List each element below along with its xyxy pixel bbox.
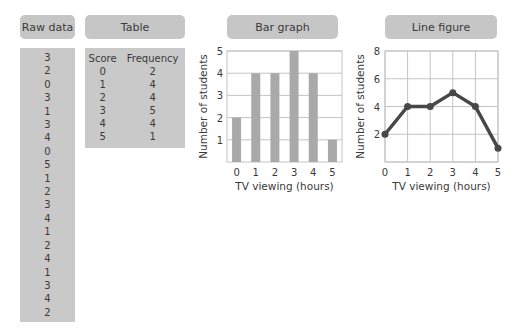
line-x-tick-label: 2 bbox=[427, 167, 433, 178]
bar-x-tick-label: 5 bbox=[329, 167, 335, 178]
line-x-tick-label: 3 bbox=[450, 167, 456, 178]
bar bbox=[251, 73, 260, 162]
bar-y-tick-label: 1 bbox=[217, 135, 223, 146]
bar-y-tick-label: 5 bbox=[217, 46, 223, 57]
line-y-tick-label: 2 bbox=[374, 129, 380, 140]
bar bbox=[309, 73, 318, 162]
bar bbox=[290, 51, 299, 162]
data-point-marker bbox=[382, 131, 389, 138]
bar-plot-area bbox=[227, 51, 342, 162]
bar-x-tick-label: 1 bbox=[253, 167, 259, 178]
line-x-tick-label: 0 bbox=[382, 167, 388, 178]
line-x-axis-label: TV viewing (hours) bbox=[391, 180, 490, 192]
line-y-tick-label: 6 bbox=[374, 74, 380, 85]
bar-x-tick-label: 0 bbox=[233, 167, 239, 178]
bar-chart: 12345012345TV viewing (hours)Number of s… bbox=[197, 46, 342, 192]
line-x-tick-label: 5 bbox=[495, 167, 501, 178]
line-chart: 0123452468TV viewing (hours)Number of st… bbox=[354, 46, 502, 192]
line-y-axis-label: Number of students bbox=[354, 54, 366, 159]
bar-x-tick-label: 4 bbox=[310, 167, 316, 178]
bar-x-tick-label: 2 bbox=[272, 167, 278, 178]
bar-x-tick-label: 3 bbox=[291, 167, 297, 178]
bar bbox=[232, 118, 241, 162]
bar-y-axis-label: Number of students bbox=[197, 54, 209, 159]
bar bbox=[328, 140, 337, 162]
bar-y-tick-label: 4 bbox=[217, 68, 223, 79]
line-x-tick-label: 1 bbox=[404, 167, 410, 178]
bar-y-tick-label: 2 bbox=[217, 113, 223, 124]
data-point-marker bbox=[449, 89, 456, 96]
bar-y-tick-label: 3 bbox=[217, 90, 223, 101]
line-y-tick-label: 4 bbox=[374, 102, 380, 113]
line-x-tick-label: 4 bbox=[472, 167, 478, 178]
line-y-tick-label: 8 bbox=[374, 46, 380, 57]
data-point-marker bbox=[495, 145, 502, 152]
data-point-marker bbox=[427, 103, 434, 110]
bar-x-axis-label: TV viewing (hours) bbox=[234, 180, 333, 192]
data-point-marker bbox=[472, 103, 479, 110]
charts-canvas: 12345012345TV viewing (hours)Number of s… bbox=[0, 0, 524, 331]
bar bbox=[270, 73, 279, 162]
data-point-marker bbox=[404, 103, 411, 110]
